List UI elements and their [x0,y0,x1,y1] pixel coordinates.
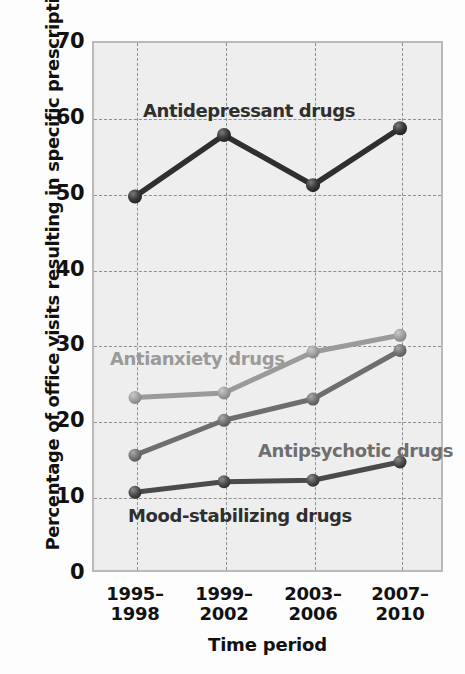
x-tick-label-line: 1999– [178,584,270,604]
gridline-y-20 [94,422,441,423]
series-label-mood-stabilizing: Mood-stabilizing drugs [128,505,352,526]
chart-figure: 010203040506070 1995–19981999–20022003–2… [0,0,465,674]
gridline-x-2 [315,43,316,570]
gridline-x-1 [226,43,227,570]
y-tick-label-0: 0 [44,560,84,584]
series-label-antidepressant: Antidepressant drugs [143,100,355,121]
x-tick-label-line: 2003– [267,584,359,604]
x-tick-label-line: 2007– [354,584,446,604]
x-tick-label-2: 2003–2006 [267,584,359,624]
x-tick-label-line: 1995– [89,584,181,604]
gridline-y-40 [94,271,441,272]
series-label-antianxiety: Antianxiety drugs [110,348,284,369]
x-axis-title: Time period [92,634,443,655]
x-tick-label-line: 2010 [354,604,446,624]
gridline-y-50 [94,195,441,196]
gridline-x-0 [137,43,138,570]
x-tick-label-3: 2007–2010 [354,584,446,624]
gridline-y-10 [94,498,441,499]
x-tick-label-1: 1999–2002 [178,584,270,624]
gridline-x-3 [402,43,403,570]
y-axis-title: Percentage of office visits resulting in… [42,71,63,551]
series-label-antipsychotic: Antipsychotic drugs [258,440,453,461]
x-tick-label-line: 2006 [267,604,359,624]
x-tick-label-line: 1998 [89,604,181,624]
x-tick-label-line: 2002 [178,604,270,624]
x-tick-label-0: 1995–1998 [89,584,181,624]
